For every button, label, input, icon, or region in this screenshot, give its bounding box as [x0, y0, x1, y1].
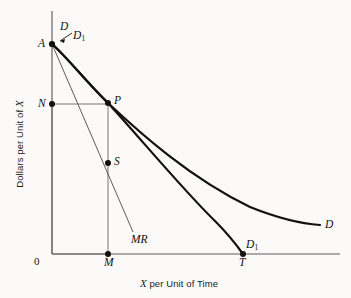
- label-marginal-revenue: MR: [131, 234, 148, 246]
- d1-callout-arrow: [60, 33, 72, 41]
- economics-demand-diagram: Dollars per Unit of X X per Unit of Time…: [0, 0, 351, 298]
- label-point-a: A: [38, 38, 45, 50]
- label-curve-d-endpoint: D: [325, 219, 333, 231]
- demand-curve-D1: [52, 44, 243, 254]
- point-marker-S: [105, 160, 111, 166]
- label-point-m: M: [104, 257, 114, 269]
- marginal-revenue-line: [52, 44, 133, 232]
- point-marker-A: [49, 41, 55, 47]
- label-curve-d1-endpoint-letter: D: [246, 238, 254, 250]
- diagram-canvas: [0, 0, 351, 298]
- label-curve-d1-top: D1: [73, 30, 85, 42]
- label-curve-d1-endpoint-subscript: 1: [255, 243, 259, 252]
- y-axis-title: Dollars per Unit of X: [13, 69, 25, 219]
- label-point-t: T: [239, 257, 245, 269]
- x-axis-title-text: per Unit of Time: [147, 278, 218, 289]
- label-curve-d1-top-subscript: 1: [82, 34, 86, 43]
- x-axis-title-variable: X: [140, 277, 147, 289]
- point-marker-N: [49, 101, 55, 107]
- revenue-rectangle: [52, 104, 108, 254]
- label-origin: 0: [34, 256, 40, 267]
- y-axis-title-text: Dollars per Unit of: [14, 107, 25, 188]
- x-axis-title: X per Unit of Time: [94, 277, 264, 289]
- demand-curve-D: [52, 44, 320, 225]
- label-curve-d1-endpoint: D1: [246, 239, 258, 251]
- label-point-s: S: [114, 156, 120, 168]
- y-axis-title-variable: X: [13, 100, 25, 107]
- label-curve-d-top: D: [60, 21, 68, 33]
- label-point-p: P: [114, 95, 121, 107]
- label-point-n: N: [38, 98, 46, 110]
- point-marker-P: [105, 100, 111, 106]
- label-curve-d1-top-letter: D: [73, 29, 81, 41]
